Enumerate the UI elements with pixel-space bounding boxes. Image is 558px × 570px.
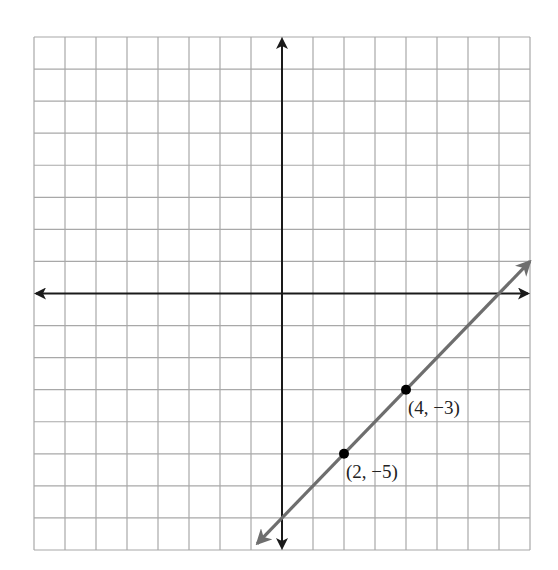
point-label: (2, −5) xyxy=(346,461,398,483)
point-label: (4, −3) xyxy=(408,397,460,419)
plotted-points: (2, −5)(4, −3) xyxy=(339,385,460,483)
data-point xyxy=(401,385,411,395)
plotted-line xyxy=(257,261,530,543)
axes xyxy=(36,39,528,548)
line-series xyxy=(257,261,530,543)
data-point xyxy=(339,449,349,459)
coordinate-plane: (2, −5)(4, −3) xyxy=(0,0,558,570)
